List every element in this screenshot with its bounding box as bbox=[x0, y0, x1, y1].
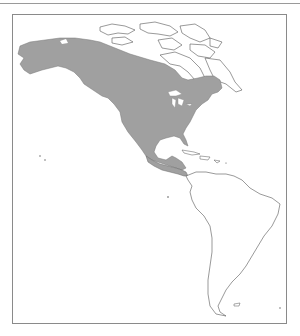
island-dot bbox=[39, 155, 40, 156]
caribbean-islands bbox=[182, 150, 220, 163]
south-america-outline bbox=[186, 172, 280, 316]
island-dot bbox=[44, 159, 45, 160]
island-dot bbox=[225, 162, 226, 163]
island-dot bbox=[167, 196, 169, 198]
island-dot bbox=[279, 307, 280, 308]
americas-map bbox=[0, 0, 300, 336]
falkland-islands bbox=[234, 303, 240, 306]
